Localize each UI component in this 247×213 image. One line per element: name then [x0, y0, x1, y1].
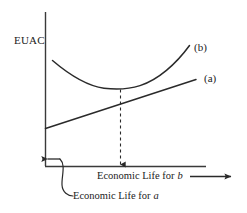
x-axis-caption-b-text: Economic Life for: [97, 170, 175, 181]
economic-life-a-leader-line: [60, 159, 73, 196]
x-axis-caption-a-text: Economic Life for: [73, 190, 151, 201]
x-axis-caption-a-variable: a: [154, 190, 159, 201]
x-axis-caption-a: Economic Life fora: [73, 191, 159, 202]
line-a-label: (a): [204, 73, 216, 84]
euac-economic-life-figure: EUAC (b) (a) Economic Life forb Economic…: [0, 0, 247, 213]
x-axis-caption-b-variable: b: [178, 170, 183, 181]
y-axis-label: EUAC: [14, 35, 45, 46]
curve-b-label: (b): [194, 42, 207, 53]
x-axis-caption-b: Economic Life forb: [97, 171, 183, 182]
euac-curve-b: [53, 46, 190, 90]
